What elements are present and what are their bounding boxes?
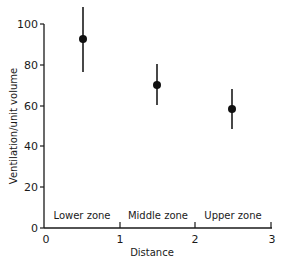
x-tick-2: 2: [192, 233, 199, 246]
y-tick-100: 100: [17, 18, 38, 31]
zone-label-lower: Lower zone: [54, 210, 111, 221]
data-point-middle-zone: [153, 64, 161, 105]
zone-label-upper: Upper zone: [204, 210, 261, 221]
y-tick-40: 40: [24, 140, 38, 153]
y-tick-labels: 0 20 40 60 80 100: [17, 18, 38, 235]
x-tick-1: 1: [117, 233, 124, 246]
x-tick-3: 3: [269, 233, 276, 246]
y-tick-80: 80: [24, 59, 38, 72]
x-axis-title: Distance: [130, 247, 174, 258]
x-tick-0: 0: [43, 233, 50, 246]
y-tick-60: 60: [24, 100, 38, 113]
data-point-upper-zone: [228, 89, 236, 129]
zone-label-middle: Middle zone: [128, 210, 188, 221]
chart: 0 20 40 60 80 100 Lower zone Middle zone…: [0, 0, 281, 261]
y-tick-0: 0: [31, 222, 38, 235]
y-axis-title: Ventilation/unit volume: [8, 68, 19, 184]
zone-dividers: [120, 222, 271, 228]
data-point-lower-zone: [79, 7, 87, 72]
y-tick-20: 20: [24, 181, 38, 194]
